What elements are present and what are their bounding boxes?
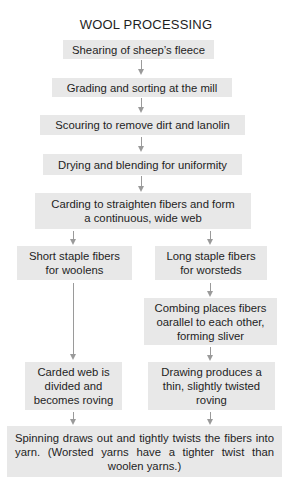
arrow-down-icon — [69, 283, 78, 360]
arrow-down-icon — [206, 283, 215, 297]
branch-woolen-roving: Carded web is divided and becomes roving — [25, 362, 122, 410]
arrow-down-icon — [206, 412, 215, 425]
step-shearing-label: Shearing of sheep’s fleece — [72, 43, 205, 57]
branch-worsted-staple-label: Long staple fibers for worsteds — [165, 249, 257, 277]
step-scouring: Scouring to remove dirt and lanolin — [40, 115, 245, 135]
arrow-down-icon — [69, 412, 78, 425]
step-carding: Carding to straighten fibers and form a … — [35, 193, 251, 229]
branch-woolen-staple: Short staple fibers for woolens — [17, 246, 132, 280]
arrow-down-icon — [137, 60, 146, 75]
step-grading: Grading and sorting at the mill — [52, 78, 232, 97]
step-scouring-label: Scouring to remove dirt and lanolin — [55, 118, 230, 132]
arrow-down-icon — [137, 98, 146, 113]
branch-worsted-drawing-label: Drawing produces a thin, slightly twiste… — [154, 365, 269, 407]
branch-worsted-combing: Combing places fibers oarallel to each o… — [144, 298, 277, 345]
branch-worsted-staple: Long staple fibers for worsteds — [155, 246, 267, 280]
arrow-down-icon — [206, 231, 215, 245]
arrow-down-icon — [69, 231, 78, 245]
branch-worsted-combing-label: Combing places fibers oarallel to each o… — [150, 301, 271, 343]
branch-woolen-staple-label: Short staple fibers for woolens — [27, 249, 122, 277]
step-carding-label: Carding to straighten fibers and form a … — [49, 197, 237, 225]
branch-woolen-roving-label: Carded web is divided and becomes roving — [29, 365, 118, 407]
arrow-down-icon — [137, 137, 146, 152]
step-drying-label: Drying and blending for uniformity — [58, 158, 227, 172]
step-spinning: Spinning draws out and tightly twists th… — [7, 426, 282, 477]
step-spinning-label: Spinning draws out and tightly twists th… — [15, 431, 274, 473]
diagram-title: WOOL PROCESSING — [0, 17, 292, 32]
arrow-down-icon — [206, 347, 215, 361]
step-shearing: Shearing of sheep’s fleece — [63, 40, 214, 59]
step-drying: Drying and blending for uniformity — [43, 154, 242, 175]
step-grading-label: Grading and sorting at the mill — [67, 81, 218, 95]
arrow-down-icon — [137, 176, 146, 192]
branch-worsted-drawing: Drawing produces a thin, slightly twiste… — [148, 362, 275, 410]
